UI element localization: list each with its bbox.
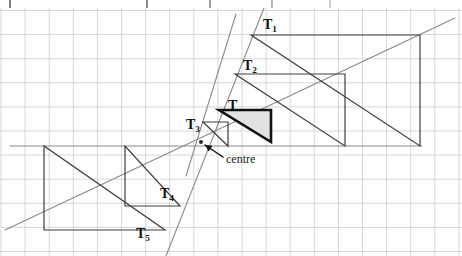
triangle-T1 (251, 35, 420, 146)
centre-point-marker (199, 140, 203, 144)
triangle-label-T: T (228, 98, 237, 114)
triangles-layer (44, 35, 420, 230)
triangle-label-subscript: 4 (169, 193, 174, 203)
triangle-label-main: T (228, 98, 237, 113)
triangle-label-main: T (243, 58, 252, 73)
triangle-label-subscript: 3 (195, 124, 200, 134)
ray-lines (5, 8, 455, 256)
ray-through-bottom-vertex (166, 8, 264, 256)
triangle-label-T1: T1 (263, 17, 277, 34)
geometry-figure (0, 0, 462, 256)
table-strip (10, 0, 462, 8)
triangle-label-main: T (160, 186, 169, 201)
triangle-label-subscript: 1 (272, 24, 277, 34)
triangle-label-main: T (186, 117, 195, 132)
triangle-label-subscript: 2 (252, 65, 257, 75)
figure-canvas: TT1T2T3T4T5centre (0, 0, 462, 256)
triangle-T5 (44, 146, 165, 230)
grid-layer (0, 8, 462, 256)
triangle-label-main: T (136, 226, 145, 241)
triangle-label-subscript: 5 (145, 233, 150, 243)
triangle-label-T4: T4 (160, 186, 174, 203)
centre-arrow-head (205, 145, 212, 152)
triangle-label-main: T (263, 17, 272, 32)
triangle-label-T5: T5 (136, 226, 150, 243)
triangle-T3 (203, 122, 228, 146)
triangle-label-T2: T2 (243, 58, 257, 75)
centre-callout: centre (226, 152, 255, 167)
triangle-label-T3: T3 (186, 117, 200, 134)
